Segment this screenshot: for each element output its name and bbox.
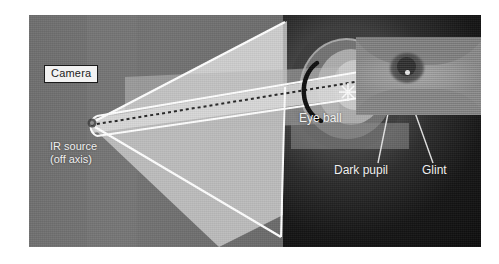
eye-glint-spot (405, 70, 410, 75)
ir-source-label: IR source (off axis) (50, 140, 97, 165)
glint-label: Glint (422, 164, 447, 177)
figure-root: Camera IR source (off axis) Eye ball Dar… (0, 0, 499, 264)
ir-source-point (88, 119, 97, 128)
ir-source-label-line1: IR source (50, 140, 97, 152)
ir-source-label-line2: (off axis) (50, 153, 92, 165)
dark-pupil-label: Dark pupil (334, 164, 388, 177)
camera-label: Camera (44, 65, 98, 83)
diagram-photo-plate (29, 15, 481, 247)
eye-closeup-inset-photo (356, 37, 481, 115)
eye-ball-label: Eye ball (299, 112, 342, 125)
eyeball-label-band (291, 123, 409, 149)
